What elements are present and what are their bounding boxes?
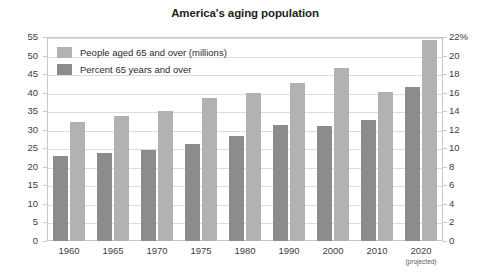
bar-percent-65-and-over — [361, 120, 377, 241]
x-axis-tick-label: 1970 — [146, 245, 167, 256]
y-axis-left-tick: 45 — [0, 69, 38, 79]
legend-label: People aged 65 and over (millions) — [80, 47, 227, 58]
y-axis-right-tick-mark — [443, 56, 447, 57]
bar-group — [223, 37, 267, 241]
y-axis-right-tick-mark — [443, 204, 447, 205]
bar-people-65-and-over-millions — [158, 111, 174, 241]
y-axis-right-tick: 6 — [449, 180, 489, 190]
y-axis-left-tick: 30 — [0, 125, 38, 135]
bar-people-65-and-over-millions — [334, 68, 350, 241]
x-axis-tick: 1960 — [47, 246, 91, 257]
x-axis-tick-label: 2020 — [410, 245, 431, 256]
x-axis-tick-label: 1990 — [278, 245, 299, 256]
y-axis-right-tick-mark — [443, 222, 447, 223]
bar-percent-65-and-over — [317, 126, 333, 241]
bar-group — [267, 37, 311, 241]
bar-people-65-and-over-millions — [290, 83, 306, 241]
x-axis-tick-label: 1980 — [234, 245, 255, 256]
legend-item: Percent 65 years and over — [57, 62, 227, 76]
bar-percent-65-and-over — [229, 136, 245, 241]
y-axis-left-tick: 25 — [0, 143, 38, 153]
bar-people-65-and-over-millions — [114, 116, 130, 241]
y-axis-right-tick: 0 — [449, 236, 489, 246]
x-axis-tick: 1975 — [179, 246, 223, 257]
y-axis-right-tick: 8 — [449, 162, 489, 172]
x-axis-tick: 1965 — [91, 246, 135, 257]
bar-percent-65-and-over — [141, 150, 157, 241]
x-axis-tick: 2020(projected) — [399, 246, 443, 265]
bar-people-65-and-over-millions — [422, 40, 438, 241]
y-axis-left-tick: 5 — [0, 217, 38, 227]
y-axis-right-tick: 10 — [449, 143, 489, 153]
y-axis-right-tick: 12 — [449, 125, 489, 135]
bar-people-65-and-over-millions — [246, 93, 262, 241]
bar-percent-65-and-over — [405, 87, 421, 241]
y-axis-right-tick: 22% — [449, 32, 489, 42]
x-axis-tick: 1970 — [135, 246, 179, 257]
legend-label: Percent 65 years and over — [80, 64, 191, 75]
y-axis-left-tick: 50 — [0, 51, 38, 61]
y-axis-right-tick-mark — [443, 37, 447, 38]
bar-people-65-and-over-millions — [378, 92, 394, 241]
x-axis-tick-label: 2010 — [366, 245, 387, 256]
y-axis-right-tick: 18 — [449, 69, 489, 79]
x-axis-tick-label: 2000 — [322, 245, 343, 256]
chart-legend: People aged 65 and over (millions)Percen… — [57, 45, 227, 79]
chart-figure: America's aging population Millions 0510… — [0, 0, 490, 277]
x-axis-tick-label: 1960 — [58, 245, 79, 256]
y-axis-right-tick-mark — [443, 130, 447, 131]
chart-title: America's aging population — [0, 7, 490, 19]
x-axis-tick-sublabel: (projected) — [399, 258, 443, 265]
bar-percent-65-and-over — [53, 156, 69, 241]
y-axis-right-tick: 4 — [449, 199, 489, 209]
y-axis-left-tick: 40 — [0, 88, 38, 98]
bar-people-65-and-over-millions — [202, 98, 218, 241]
legend-swatch — [57, 47, 72, 58]
legend-item: People aged 65 and over (millions) — [57, 45, 227, 59]
y-axis-right-tick-mark — [443, 167, 447, 168]
y-axis-left-tick: 0 — [0, 236, 38, 246]
y-axis-right-tick-mark — [443, 185, 447, 186]
bar-percent-65-and-over — [273, 125, 289, 241]
y-axis-left-tick-mark — [43, 241, 47, 242]
x-axis-tick: 1990 — [267, 246, 311, 257]
x-axis-tick-label: 1975 — [190, 245, 211, 256]
bar-percent-65-and-over — [97, 153, 113, 241]
bar-percent-65-and-over — [185, 144, 201, 241]
y-axis-right-tick: 2 — [449, 217, 489, 227]
y-axis-right-tick: 16 — [449, 88, 489, 98]
x-axis-tick: 2010 — [355, 246, 399, 257]
x-axis-tick: 1980 — [223, 246, 267, 257]
y-axis-right-tick: 20 — [449, 51, 489, 61]
y-axis-right-tick-mark — [443, 148, 447, 149]
x-axis-tick-label: 1965 — [102, 245, 123, 256]
y-axis-right-tick-mark — [443, 74, 447, 75]
y-axis-left-tick: 20 — [0, 162, 38, 172]
bar-people-65-and-over-millions — [70, 122, 86, 241]
bar-group — [311, 37, 355, 241]
y-axis-right-tick-mark — [443, 111, 447, 112]
y-axis-right-tick-mark — [443, 93, 447, 94]
legend-swatch — [57, 64, 72, 75]
y-axis-left-tick: 15 — [0, 180, 38, 190]
y-axis-left-tick: 35 — [0, 106, 38, 116]
bar-group — [355, 37, 399, 241]
y-axis-right-tick-mark — [443, 241, 447, 242]
y-axis-left-tick: 55 — [0, 32, 38, 42]
bar-group — [399, 37, 443, 241]
y-axis-left-tick: 10 — [0, 199, 38, 209]
y-axis-right-tick: 14 — [449, 106, 489, 116]
x-axis-tick: 2000 — [311, 246, 355, 257]
